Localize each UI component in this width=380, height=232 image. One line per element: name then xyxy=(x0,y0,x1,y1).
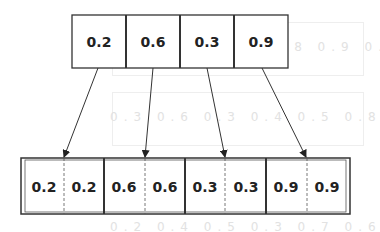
output-cell-0: 0.2 xyxy=(32,179,57,195)
arrow-0 xyxy=(64,68,98,157)
output-cell-6: 0.9 xyxy=(274,179,299,195)
input-cell-3: 0.9 xyxy=(249,34,274,50)
input-cell-0: 0.2 xyxy=(87,34,112,50)
output-cell-2: 0.6 xyxy=(112,179,137,195)
upsample-diagram: 0.2 0.6 0.3 0.9 0.2 0.2 0.6 0.6 0.3 0.3 … xyxy=(0,0,380,232)
arrow-1 xyxy=(145,68,153,157)
output-row: 0.2 0.2 0.6 0.6 0.3 0.3 0.9 0.9 xyxy=(21,158,350,214)
output-cell-7: 0.9 xyxy=(315,179,340,195)
input-cell-1: 0.6 xyxy=(141,34,166,50)
input-row: 0.2 0.6 0.3 0.9 xyxy=(72,15,288,68)
input-cell-2: 0.3 xyxy=(195,34,220,50)
output-cell-4: 0.3 xyxy=(193,179,218,195)
output-cell-3: 0.6 xyxy=(153,179,178,195)
output-cell-1: 0.2 xyxy=(72,179,97,195)
output-cell-5: 0.3 xyxy=(234,179,259,195)
arrow-3 xyxy=(262,68,306,157)
arrow-2 xyxy=(207,68,225,157)
arrows xyxy=(64,68,306,157)
